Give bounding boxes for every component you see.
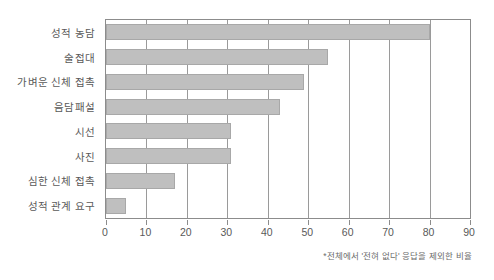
bars-layer: [106, 20, 470, 218]
y-axis-label: 성적 관계 요구: [0, 193, 100, 218]
bar-row: [106, 94, 470, 119]
y-axis-labels: 성적 농담술접대가벼운 신체 접촉음담패설시선사진심한 신체 접촉성적 관계 요…: [0, 20, 100, 218]
bar-row: [106, 119, 470, 144]
bar-row: [106, 144, 470, 169]
bar: [106, 148, 231, 164]
tick-40: [268, 220, 269, 225]
tick-50: [308, 220, 309, 225]
tick-70: [389, 220, 390, 225]
x-axis-tick-label: 80: [423, 226, 435, 238]
x-axis-tick-label: 60: [342, 226, 354, 238]
tick-60: [349, 220, 350, 225]
x-axis-tick-label: 90: [463, 226, 475, 238]
bar: [106, 198, 126, 214]
x-axis-labels: 0102030405060708090: [0, 226, 494, 240]
tick-10: [146, 220, 147, 225]
x-axis-tick-label: 10: [140, 226, 152, 238]
bar-row: [106, 20, 470, 45]
x-axis-tick-label: 30: [220, 226, 232, 238]
bar-row: [106, 193, 470, 218]
bar-row: [106, 169, 470, 194]
y-axis-label: 음담패설: [0, 94, 100, 119]
chart-footnote: *전체에서 '전혀 없다' 응답을 제외한 비율: [323, 249, 472, 261]
y-axis-label: 시선: [0, 119, 100, 144]
bar-chart: 성적 농담술접대가벼운 신체 접촉음담패설시선사진심한 신체 접촉성적 관계 요…: [0, 0, 494, 280]
tick-20: [187, 220, 188, 225]
bar: [106, 49, 328, 65]
y-axis-label: 가벼운 신체 접촉: [0, 70, 100, 95]
x-axis-tick-label: 70: [382, 226, 394, 238]
y-axis-label: 심한 신체 접촉: [0, 169, 100, 194]
x-axis-tick-label: 40: [261, 226, 273, 238]
y-axis-label: 술접대: [0, 45, 100, 70]
bar: [106, 173, 175, 189]
x-axis-tick-label: 20: [180, 226, 192, 238]
bar: [106, 74, 304, 90]
tick-30: [227, 220, 228, 225]
bar: [106, 24, 430, 40]
y-axis-label: 사진: [0, 144, 100, 169]
bar: [106, 123, 231, 139]
x-axis-tick-label: 0: [102, 226, 108, 238]
bar: [106, 99, 280, 115]
x-axis-tick-label: 50: [301, 226, 313, 238]
tick-80: [430, 220, 431, 225]
bar-row: [106, 70, 470, 95]
bar-row: [106, 45, 470, 70]
y-axis-label: 성적 농담: [0, 20, 100, 45]
tick-0: [106, 220, 107, 225]
tick-90: [470, 220, 471, 225]
